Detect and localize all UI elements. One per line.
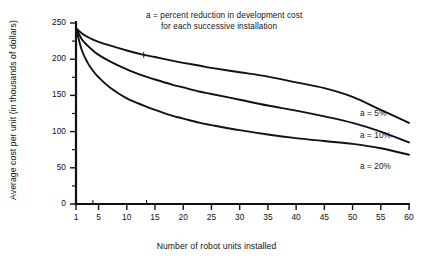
legend-label-a5: a = 5% [360, 109, 386, 118]
annotation-line-1: a = percent reduction in development cos… [146, 11, 302, 22]
y-tick-label-100: 100 [34, 126, 66, 136]
annotation-line-2: for each successive installation [161, 22, 277, 33]
y-tick-label-0: 0 [34, 198, 66, 208]
x-tick-label-40: 40 [281, 212, 311, 222]
x-tick-label-30: 30 [225, 212, 255, 222]
x-tick-label-25: 25 [196, 212, 226, 222]
x-tick-label-55: 55 [366, 212, 396, 222]
curve-a-10- [76, 28, 409, 142]
y-tick-label-50: 50 [34, 162, 66, 172]
y-tick-label-250: 250 [34, 17, 66, 27]
x-tick-label-10: 10 [112, 212, 142, 222]
chart-figure: 050100150200250 151015202530354045505560… [0, 0, 433, 259]
legend-label-a20: a = 20% [360, 162, 391, 171]
x-tick-label-20: 20 [168, 212, 198, 222]
x-tick-label-35: 35 [253, 212, 283, 222]
y-axis-title: Average cost per unit (in thousands of d… [8, 5, 18, 215]
y-tick-label-150: 150 [34, 89, 66, 99]
x-tick-label-45: 45 [309, 212, 339, 222]
y-tick-label-200: 200 [34, 53, 66, 63]
x-tick-label-15: 15 [140, 212, 170, 222]
x-tick-label-5: 5 [84, 212, 114, 222]
legend-label-a10: a = 10% [360, 131, 391, 140]
x-axis-title: Number of robot units installed [0, 241, 433, 251]
x-tick-label-60: 60 [394, 212, 424, 222]
x-tick-label-50: 50 [338, 212, 368, 222]
